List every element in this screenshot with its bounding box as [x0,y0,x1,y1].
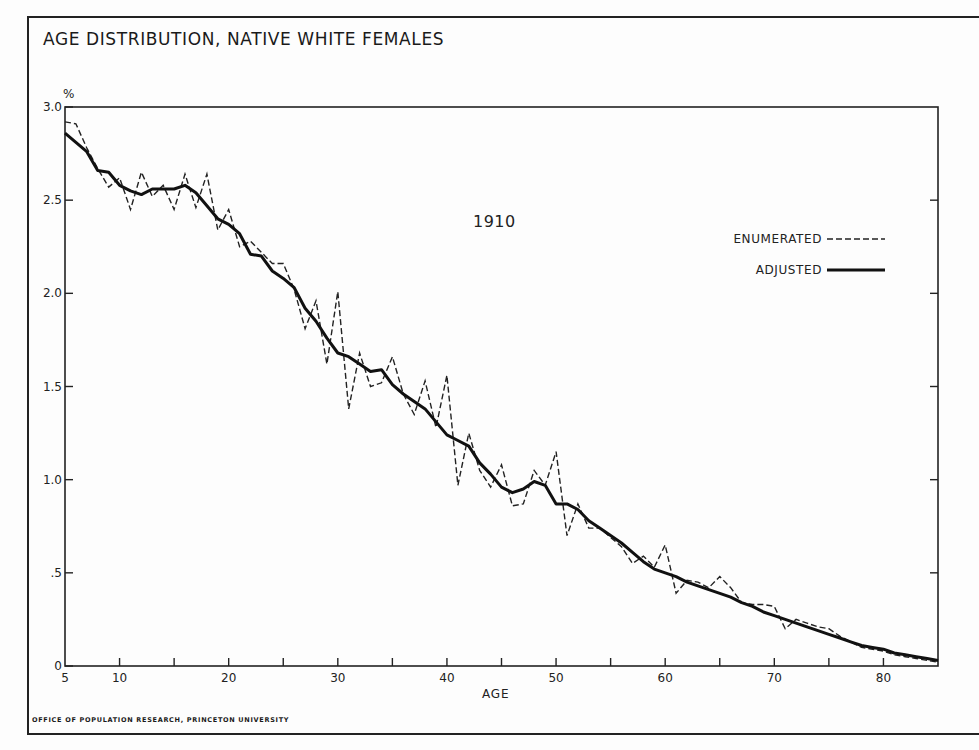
plot-area [65,107,938,666]
x-axis-label: AGE [482,687,509,701]
y-tick-label: 1.5 [43,380,62,394]
year-annotation: 1910 [473,212,516,231]
legend: ENUMERATED ADJUSTED [733,232,885,277]
x-tick-label: 5 [61,671,69,685]
x-tick-label: 50 [548,671,563,685]
enumerated-series-line [65,122,938,662]
x-axis: 51020304050607080 [61,658,891,685]
x-tick-label: 80 [876,671,891,685]
x-tick-label: 20 [221,671,236,685]
y-tick-label: 1.0 [43,473,62,487]
x-tick-label: 70 [767,671,782,685]
x-tick-label: 30 [330,671,345,685]
y-tick-label: 2.5 [43,193,62,207]
y-axis: 3.02.52.01.51.0.50 [43,100,938,673]
y-tick-label: 3.0 [43,100,62,114]
x-tick-label: 60 [658,671,673,685]
credit-footer: OFFICE OF POPULATION RESEARCH, PRINCETON… [32,716,289,724]
y-unit-label: % [63,87,74,101]
y-tick-label: .5 [51,566,62,580]
x-tick-label: 40 [439,671,454,685]
x-tick-label: 10 [112,671,127,685]
y-tick-label: 2.0 [43,286,62,300]
legend-label-enumerated: ENUMERATED [733,232,822,246]
legend-label-adjusted: ADJUSTED [756,263,822,277]
